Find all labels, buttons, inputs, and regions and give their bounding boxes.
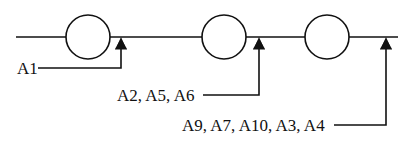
diagram-canvas: A1 A2, A5, A6 A9, A7, A10, A3, A4: [0, 0, 413, 143]
connector-a2-a5-a6: [203, 40, 259, 95]
input-label-3: A9, A7, A10, A3, A4: [182, 117, 325, 134]
arrowhead-icon: [117, 37, 125, 46]
station-circle-2: [202, 15, 246, 59]
arrowhead-icon: [382, 37, 390, 46]
station-circle-1: [66, 15, 110, 59]
station-circle-3: [305, 15, 349, 59]
input-label-1: A1: [17, 60, 38, 77]
arrowhead-icon: [255, 37, 263, 46]
input-label-2: A2, A5, A6: [117, 87, 194, 104]
